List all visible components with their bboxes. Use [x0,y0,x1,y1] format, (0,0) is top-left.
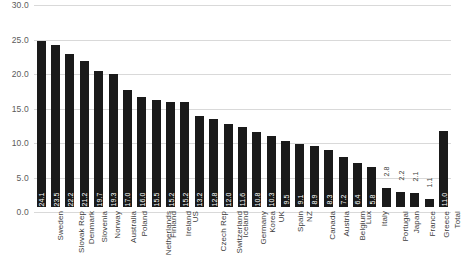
y-axis-tick: 10.0 [12,138,29,148]
bar-slot: 11.6 [235,0,249,207]
y-axis: 0.05.010.015.020.025.030.0 [0,0,32,212]
bar[interactable]: 12.8 [209,119,218,207]
y-axis-tick: 20.0 [12,69,29,79]
bar[interactable]: 10.8 [252,132,261,207]
x-label-slot: Iceland [221,209,235,276]
bar-value-label: 22.2 [66,192,73,206]
bar-value-label: 2.2 [397,170,404,180]
bar[interactable]: 23.5 [51,45,60,207]
y-axis-tick: 30.0 [12,0,29,10]
x-label-slot: Czech Rep [192,209,206,276]
plot-area: 24.123.522.221.219.719.317.016.015.515.2… [34,0,451,212]
bar[interactable]: 9.5 [281,141,290,207]
bar-slot: 9.5 [278,0,292,207]
bar-value-label: 11.6 [239,193,246,207]
x-axis-labels: SwedenSlovak RepDenmarkSloveniaNorwayAus… [34,209,451,276]
bar[interactable]: 15.2 [166,102,175,207]
bar-value-label: 8.9 [311,194,318,204]
bar-value-label: 10.3 [268,192,275,206]
bar-slot: 11.0 [437,0,451,207]
bar-value-label: 2.8 [383,166,390,176]
y-axis-tick: 25.0 [12,35,29,45]
bar-slot: 7.2 [336,0,350,207]
bar-value-label: 5.8 [368,194,375,204]
bar-slot: 13.2 [192,0,206,207]
bar-slot: 21.2 [77,0,91,207]
x-label-slot: Total [437,209,451,276]
x-label-slot: Canada [307,209,321,276]
x-label-slot: Slovenia [77,209,91,276]
bar-value-label: 16.0 [138,192,145,206]
bar-value-label: 1.1 [426,178,433,188]
bar[interactable]: 5.8 [367,167,376,207]
bar-value-label: 23.5 [52,192,59,206]
x-label-slot: NZ [293,209,307,276]
bar-slot: 9.1 [293,0,307,207]
bar-slot: 15.5 [149,0,163,207]
bar[interactable]: 19.3 [109,74,118,207]
bar-value-label: 24.1 [38,192,45,206]
bar[interactable]: 10.3 [267,136,276,207]
bar-value-label: 15.5 [153,192,160,206]
bar-slot: 12.0 [221,0,235,207]
bar[interactable]: 13.2 [195,116,204,207]
bar-value-label: 11.0 [440,193,447,207]
bar-value-label: 15.2 [167,192,174,206]
bar-slot: 22.2 [63,0,77,207]
x-label-slot: France [408,209,422,276]
bar-slot: 16.0 [135,0,149,207]
bar-value-label: 7.2 [340,194,347,204]
bar-slot: 17.0 [120,0,134,207]
bar[interactable]: 2.1 [410,193,419,207]
bar-slot: 2.1 [408,0,422,207]
x-label-slot: Finland [149,209,163,276]
bar-value-label: 13.2 [196,192,203,206]
bar-value-label: 8.3 [325,194,332,204]
x-label-slot: UK [264,209,278,276]
bar-slot: 5.8 [365,0,379,207]
bar[interactable]: 15.5 [152,100,161,207]
bar[interactable]: 12.0 [224,124,233,207]
bar[interactable]: 11.0 [439,131,448,207]
x-label-slot: Greece [422,209,436,276]
x-label-slot: Slovak Rep [48,209,62,276]
bar-slot: 12.8 [207,0,221,207]
bar[interactable]: 11.6 [238,127,247,207]
bar[interactable]: 24.1 [37,41,46,207]
y-axis-tick: 0.0 [17,207,29,217]
bar[interactable]: 6.4 [353,163,362,207]
bar-slot: 23.5 [48,0,62,207]
x-label-slot: US [178,209,192,276]
bar[interactable]: 16.0 [137,97,146,207]
bar-value-label: 12.8 [210,192,217,206]
bar-slot: 15.2 [178,0,192,207]
bar-value-label: 2.1 [411,171,418,181]
bar[interactable]: 17.0 [123,90,132,207]
x-label-slot: Poland [120,209,134,276]
bar[interactable]: 1.1 [425,199,434,207]
bar-value-label: 12.0 [225,192,232,206]
bar-value-label: 9.1 [296,194,303,204]
bar[interactable]: 7.2 [339,157,348,207]
y-axis-tick: 15.0 [12,104,29,114]
bar-slot: 10.8 [250,0,264,207]
y-axis-tick: 5.0 [17,173,29,183]
bar[interactable]: 8.3 [324,150,333,207]
bar-slot: 2.8 [379,0,393,207]
bar[interactable]: 15.2 [180,102,189,207]
bar[interactable]: 21.2 [80,61,89,207]
bar[interactable]: 2.8 [382,188,391,207]
bar-slot: 19.3 [106,0,120,207]
bar[interactable]: 2.2 [396,192,405,207]
x-label-slot: Korea [250,209,264,276]
x-label-slot: Spain [278,209,292,276]
bar-value-label: 17.0 [124,192,131,206]
bar-slot: 19.7 [92,0,106,207]
x-label-slot: Netherlands [135,209,149,276]
bar[interactable]: 19.7 [94,71,103,207]
bar[interactable]: 22.2 [65,54,74,207]
bar-value-label: 21.2 [81,192,88,206]
bar[interactable]: 8.9 [310,146,319,207]
bar[interactable]: 9.1 [295,144,304,207]
